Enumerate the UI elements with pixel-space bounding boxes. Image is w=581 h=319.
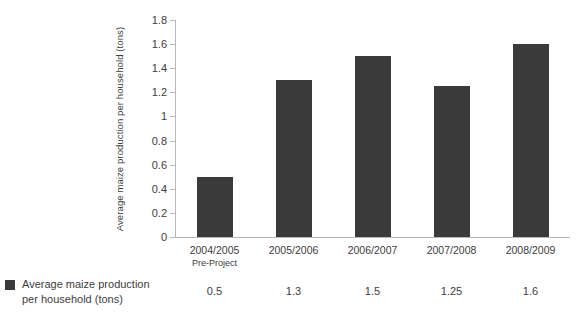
y-tick-label: 0.6	[152, 159, 167, 171]
bar	[355, 56, 391, 237]
y-tick-mark	[170, 116, 175, 117]
x-category-label-main: 2008/2009	[481, 244, 581, 257]
y-tick-mark	[170, 20, 175, 21]
bar	[276, 80, 312, 237]
y-tick-label: 0.2	[152, 207, 167, 219]
legend-label-line-1: Average maize production	[22, 277, 150, 292]
plot-area: 00.20.40.60.811.21.41.61.8	[175, 20, 570, 237]
y-axis-title: Average maize production per household (…	[112, 18, 128, 240]
data-value-label: 0.5	[175, 283, 255, 299]
y-tick-label: 1	[161, 110, 167, 122]
y-axis-line	[175, 20, 176, 237]
data-value-label: 1.5	[333, 283, 413, 299]
bar	[197, 177, 233, 237]
data-value-label: 1.3	[254, 283, 334, 299]
y-tick-mark	[170, 141, 175, 142]
y-tick-mark	[170, 189, 175, 190]
y-tick-mark	[170, 92, 175, 93]
x-axis-line	[175, 237, 570, 238]
x-axis-category-labels: 2004/2005Pre-Project2005/20062006/200720…	[175, 244, 570, 274]
y-tick-mark	[170, 213, 175, 214]
y-tick-label: 1.6	[152, 38, 167, 50]
y-tick-label: 1.2	[152, 86, 167, 98]
y-tick-label: 0.8	[152, 135, 167, 147]
data-value-label: 1.25	[412, 283, 492, 299]
y-tick-label: 0	[161, 231, 167, 243]
legend-label: Average maize production per household (…	[22, 277, 150, 307]
bar	[434, 86, 470, 237]
x-category-label-sub: Pre-Project	[165, 257, 265, 270]
y-tick-mark	[170, 165, 175, 166]
y-tick-mark	[170, 68, 175, 69]
x-category-label: 2008/2009	[481, 244, 581, 257]
y-tick-label: 0.4	[152, 183, 167, 195]
y-tick-label: 1.8	[152, 14, 167, 26]
bar	[513, 44, 549, 237]
y-tick-mark	[170, 237, 175, 238]
legend-color-swatch	[5, 280, 15, 290]
y-tick-label: 1.4	[152, 62, 167, 74]
bar-chart-figure: Average maize production per household (…	[0, 0, 581, 319]
data-value-label: 1.6	[491, 283, 571, 299]
legend-label-line-2: per household (tons)	[22, 292, 150, 307]
y-tick-mark	[170, 44, 175, 45]
data-value-row: 0.51.31.51.251.6	[175, 283, 570, 299]
chart-legend: Average maize production per household (…	[5, 277, 150, 307]
